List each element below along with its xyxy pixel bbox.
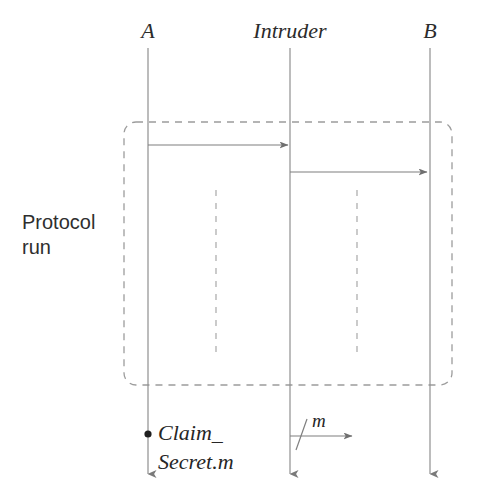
protocol-run-box bbox=[124, 122, 452, 385]
claim-secret-label: Claim_ Secret.m bbox=[158, 418, 234, 476]
protocol-run-label-line-1: Protocol bbox=[22, 210, 95, 235]
claim-secret-line-1: Claim_ bbox=[158, 418, 234, 447]
lifeline-label-b: B bbox=[423, 18, 436, 44]
slash-mark-icon bbox=[296, 419, 307, 450]
protocol-run-label-line-2: run bbox=[22, 235, 95, 260]
message-label-m: m bbox=[312, 410, 326, 432]
claim-secret-line-2: Secret.m bbox=[158, 447, 234, 476]
claim-dot-icon bbox=[144, 430, 151, 437]
lifeline-label-intruder: Intruder bbox=[253, 18, 326, 44]
msc-diagram-canvas: A Intruder B Protocol run Claim_ Secret.… bbox=[0, 0, 477, 500]
protocol-run-label: Protocol run bbox=[22, 210, 95, 260]
lifeline-label-a: A bbox=[141, 18, 154, 44]
